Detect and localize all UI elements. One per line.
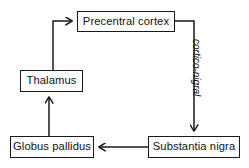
node-substantia-nigra[interactable]: Substantia nigra <box>148 136 240 158</box>
diagram-canvas: Precentral cortex Thalamus Globus pallid… <box>0 0 249 168</box>
node-precentral-cortex[interactable]: Precentral cortex <box>77 11 175 32</box>
edge-thalamus-to-precentral-cortex <box>53 21 72 70</box>
node-globus-pallidus-label: Globus pallidus <box>13 141 91 152</box>
node-substantia-nigra-label: Substantia nigra <box>153 141 235 152</box>
node-thalamus[interactable]: Thalamus <box>20 70 83 92</box>
node-thalamus-label: Thalamus <box>27 75 77 86</box>
node-precentral-cortex-label: Precentral cortex <box>83 16 169 27</box>
edge-label-cortico-nigral: cortico-nigral <box>189 39 203 109</box>
node-globus-pallidus[interactable]: Globus pallidus <box>10 136 94 158</box>
